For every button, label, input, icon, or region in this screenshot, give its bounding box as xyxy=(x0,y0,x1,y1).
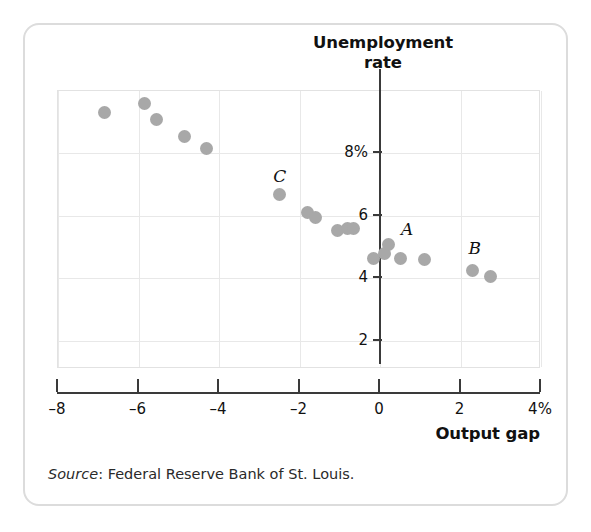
y-tick-mark-0 xyxy=(373,151,382,153)
data-point-B xyxy=(466,264,479,277)
y-tick-mark-3 xyxy=(373,339,382,341)
chart-title-line-2: rate xyxy=(263,53,503,73)
source-note: Source: Federal Reserve Bank of St. Loui… xyxy=(48,466,354,482)
gridline-v-5 xyxy=(461,91,462,367)
y-tick-label-2: 4 xyxy=(358,270,368,285)
y-tick-label-1: 6 xyxy=(358,207,368,222)
chart-figure: Unemployment rate CAB 8%642 –8–6–4–2024%… xyxy=(0,0,591,532)
data-point-3 xyxy=(178,130,191,143)
x-tick-label-0: –8 xyxy=(48,402,65,417)
data-point-15 xyxy=(418,253,431,266)
gridline-h-0 xyxy=(58,153,539,154)
x-axis-title: Output gap xyxy=(435,424,540,443)
y-tick-label-0: 8% xyxy=(344,145,368,160)
y-axis-ticks: 8%642 xyxy=(320,90,382,368)
point-label-C: C xyxy=(273,168,286,185)
gridline-h-1 xyxy=(58,216,539,217)
x-tick-label-6: 4% xyxy=(528,402,552,417)
data-point-14 xyxy=(394,252,407,265)
gridline-h-2 xyxy=(58,278,539,279)
chart-title-line-1: Unemployment xyxy=(263,33,503,53)
chart-title: Unemployment rate xyxy=(263,33,503,73)
data-point-2 xyxy=(150,113,163,126)
gridline-v-0 xyxy=(58,91,59,367)
x-tick-mark-1 xyxy=(137,379,139,392)
point-label-B: B xyxy=(469,240,482,257)
y-tick-label-3: 2 xyxy=(358,332,368,347)
data-point-1 xyxy=(138,97,151,110)
source-separator: : xyxy=(98,466,108,482)
y-tick-mark-1 xyxy=(373,214,382,216)
data-point-A xyxy=(382,238,395,251)
gridline-h-3 xyxy=(58,341,539,342)
x-tick-label-2: –4 xyxy=(209,402,226,417)
gridline-v-2 xyxy=(219,91,220,367)
x-tick-mark-0 xyxy=(56,379,58,392)
plot-area: CAB xyxy=(57,90,540,368)
source-text: Federal Reserve Bank of St. Louis. xyxy=(108,466,355,482)
gridline-v-6 xyxy=(541,91,542,367)
data-point-17 xyxy=(484,270,497,283)
gridline-v-1 xyxy=(139,91,140,367)
x-tick-label-5: 2 xyxy=(455,402,465,417)
source-label: Source xyxy=(48,466,98,482)
x-tick-mark-3 xyxy=(298,379,300,392)
x-tick-mark-6 xyxy=(539,379,541,392)
x-tick-mark-5 xyxy=(459,379,461,392)
gridline-v-3 xyxy=(300,91,301,367)
x-tick-mark-4 xyxy=(378,379,380,392)
x-tick-mark-2 xyxy=(217,379,219,392)
y-tick-mark-2 xyxy=(373,276,382,278)
x-tick-label-3: –2 xyxy=(290,402,307,417)
point-label-A: A xyxy=(401,221,413,238)
x-tick-label-4: 0 xyxy=(374,402,384,417)
data-point-C xyxy=(273,188,286,201)
data-point-0 xyxy=(98,106,111,119)
x-axis-line: –8–6–4–2024% xyxy=(57,392,540,394)
x-tick-label-1: –6 xyxy=(129,402,146,417)
